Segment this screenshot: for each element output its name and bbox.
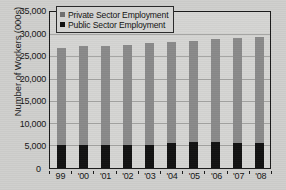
y-tick-label: 15,000 [20,97,46,105]
stacked-bar[interactable] [167,12,176,168]
x-tick-label: '01 [100,171,109,185]
bar-segment-public-sector[interactable] [255,143,264,168]
x-tick-label: '00 [78,171,87,185]
x-tick-label: '05 [189,171,198,185]
bar-segment-public-sector[interactable] [145,145,154,168]
bar-segment-public-sector[interactable] [57,145,66,168]
y-tick-label: 30,000 [20,30,46,38]
legend-item-label: Public Sector Employment [68,20,165,30]
bar-segment-public-sector[interactable] [79,145,88,168]
y-tick-label: 10,000 [20,120,46,128]
x-tick-mark [204,171,205,174]
bar-segment-private-sector[interactable] [189,41,198,143]
bar-segment-private-sector[interactable] [211,39,220,142]
x-tick-label: 99 [56,171,65,185]
x-tick-mark [93,171,94,174]
x-tick-label: '06 [211,171,220,185]
bar-segment-private-sector[interactable] [123,45,132,146]
y-tick-label: 35,000 [20,7,46,15]
bar-segment-public-sector[interactable] [101,145,110,168]
x-tick-mark [71,171,72,174]
bar-segment-private-sector[interactable] [233,38,242,143]
bar-segment-private-sector[interactable] [101,46,110,145]
x-tick-label: '04 [167,171,176,185]
bar-segment-public-sector[interactable] [211,142,220,168]
y-axis-tick-labels: 5,00010,00015,00020,00025,00030,00035,00… [12,8,46,174]
scanned-page: Number of Workers (000s) 5,00010,00015,0… [0,0,286,190]
legend-item[interactable]: Public Sector Employment [60,20,168,29]
x-tick-mark [182,171,183,174]
private-sector-swatch-icon [60,12,65,17]
stacked-bar[interactable] [79,12,88,168]
x-tick-mark [138,171,139,174]
y-tick-label: 20,000 [20,75,46,83]
bar-segment-private-sector[interactable] [255,37,264,144]
bar-segment-public-sector[interactable] [189,142,198,168]
bar-segment-private-sector[interactable] [145,43,154,145]
bar-segment-private-sector[interactable] [167,42,176,144]
x-tick-label: '03 [144,171,153,185]
stacked-bar[interactable] [211,12,220,168]
y-axis-zero-label: 0 [36,164,41,174]
stacked-bar[interactable] [189,12,198,168]
bar-segment-private-sector[interactable] [79,46,88,145]
stacked-bar[interactable] [145,12,154,168]
x-tick-mark [249,171,250,174]
bar-segment-public-sector[interactable] [167,143,176,168]
bar-segment-public-sector[interactable] [233,143,242,168]
y-tick-label: 25,000 [20,52,46,60]
plot-area [49,11,271,169]
legend-item[interactable]: Private Sector Employment [60,10,168,19]
x-tick-mark [271,171,272,174]
bar-series-container [50,12,270,168]
legend-item-label: Private Sector Employment [68,10,168,20]
stacked-bar[interactable] [57,12,66,168]
bar-segment-private-sector[interactable] [57,48,66,145]
y-tick-label: 5,000 [24,142,46,150]
stacked-bar[interactable] [233,12,242,168]
x-tick-label: '02 [122,171,131,185]
x-tick-mark [160,171,161,174]
stacked-bar[interactable] [101,12,110,168]
x-tick-mark [49,171,50,174]
x-tick-label: '08 [255,171,264,185]
x-axis-tick-labels: 99'00'01'02'03'04'05'06'07'08 [49,171,271,185]
x-tick-mark [227,171,228,174]
public-sector-swatch-icon [60,22,65,27]
stacked-bar[interactable] [123,12,132,168]
bar-segment-public-sector[interactable] [123,145,132,168]
stacked-bar[interactable] [255,12,264,168]
x-tick-mark [116,171,117,174]
x-tick-label: '07 [233,171,242,185]
chart-legend: Private Sector EmploymentPublic Sector E… [56,6,174,33]
